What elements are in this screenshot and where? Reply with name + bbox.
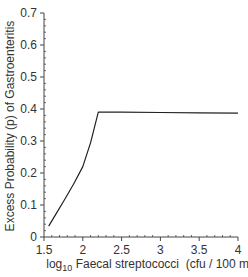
x-tick-label: 1.5 [36, 243, 53, 257]
x-tick-label: 2.5 [113, 243, 130, 257]
x-axis-label: log10 Faecal streptococci (cfu / 100 ml) [46, 257, 248, 273]
chart: 00.10.20.30.40.50.60.7 1.522.533.54 Exce… [0, 0, 248, 277]
x-axis-label-subscript: 10 [62, 263, 72, 273]
x-tick-label: 2 [79, 243, 86, 257]
y-axis: 00.10.20.30.40.50.60.7 [20, 6, 46, 244]
x-tick-label: 3.5 [191, 243, 208, 257]
y-tick-label: 0.2 [20, 166, 37, 180]
series-line [49, 112, 238, 226]
y-tick-label: 0.5 [20, 70, 37, 84]
y-tick-label: 0.4 [20, 102, 37, 116]
y-tick-label: 0 [30, 230, 37, 244]
y-tick-label: 0.6 [20, 38, 37, 52]
x-axis: 1.522.533.54 [36, 235, 242, 257]
y-axis-label: Excess Probability (p) of Gastroenteriti… [3, 21, 17, 232]
x-axis-label-log: log [46, 257, 62, 271]
x-axis-label-rest: Faecal streptococci (cfu / 100 ml) [72, 257, 248, 271]
y-tick-label: 0.1 [20, 198, 37, 212]
x-tick-label: 4 [235, 243, 242, 257]
y-tick-label: 0.7 [20, 6, 37, 20]
x-tick-label: 3 [157, 243, 164, 257]
y-tick-label: 0.3 [20, 134, 37, 148]
plot-lines [49, 112, 238, 226]
